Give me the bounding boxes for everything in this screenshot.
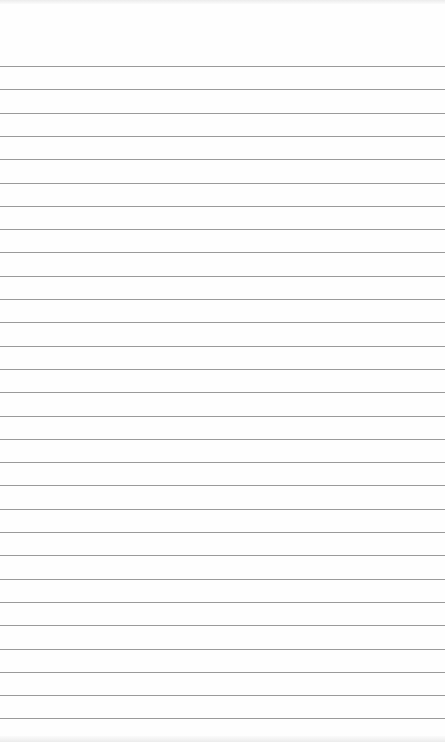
ruled-line: [0, 136, 445, 137]
ruled-line: [0, 252, 445, 253]
ruled-line: [0, 206, 445, 207]
ruled-line: [0, 322, 445, 323]
ruled-line: [0, 369, 445, 370]
ruled-line: [0, 649, 445, 650]
ruled-line: [0, 555, 445, 556]
ruled-line: [0, 625, 445, 626]
notepad-page[interactable]: [0, 0, 445, 742]
ruled-line: [0, 113, 445, 114]
ruled-line: [0, 439, 445, 440]
ruled-line: [0, 346, 445, 347]
ruled-line: [0, 159, 445, 160]
ruled-line: [0, 532, 445, 533]
ruled-line: [0, 579, 445, 580]
ruled-line: [0, 89, 445, 90]
ruled-line: [0, 299, 445, 300]
ruled-line: [0, 416, 445, 417]
ruled-line: [0, 695, 445, 696]
ruled-line: [0, 718, 445, 719]
ruled-line: [0, 509, 445, 510]
ruled-line: [0, 672, 445, 673]
ruled-line: [0, 276, 445, 277]
ruled-line: [0, 183, 445, 184]
ruled-line: [0, 602, 445, 603]
note-text-area[interactable]: [6, 44, 439, 67]
ruled-line: [0, 229, 445, 230]
bottom-edge: [0, 736, 445, 742]
top-edge: [0, 0, 445, 4]
ruled-line: [0, 462, 445, 463]
ruled-line: [0, 485, 445, 486]
ruled-line: [0, 392, 445, 393]
